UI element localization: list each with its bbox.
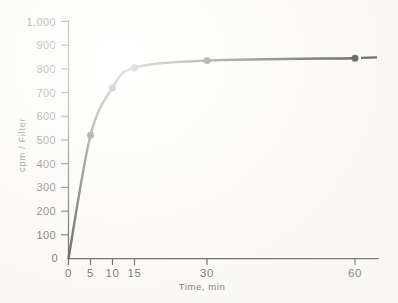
data-point-30min [204, 57, 211, 64]
x-tick-label-30: 30 [200, 267, 214, 279]
y-axis: 1,000 900 800 700 600 500 400 300 200 10… [16, 16, 69, 264]
data-point-5min [87, 132, 94, 139]
y-tick-label-800: 800 [36, 63, 56, 75]
data-series-group [69, 55, 378, 259]
y-tick-label-200: 200 [36, 205, 56, 217]
x-tick-label-10: 10 [106, 267, 120, 279]
figure-canvas: 1,000 900 800 700 600 500 400 300 200 10… [0, 0, 398, 303]
data-point-10min [109, 85, 116, 92]
data-point-60min [352, 55, 359, 62]
y-tick-label-700: 700 [36, 87, 56, 99]
data-point-15min [131, 64, 138, 71]
y-axis-title: cpm / Filter [16, 118, 27, 172]
x-axis-title: Time, min [179, 281, 226, 292]
x-tick-label-5: 5 [87, 267, 94, 279]
y-tick-label-900: 900 [36, 39, 56, 51]
y-tick-label-600: 600 [36, 110, 56, 122]
line-chart: 1,000 900 800 700 600 500 400 300 200 10… [0, 0, 398, 303]
curve-end-stub [361, 57, 377, 58]
y-tick-label-0: 0 [51, 252, 58, 264]
x-tick-label-60: 60 [348, 267, 362, 279]
y-tick-label-100: 100 [36, 229, 56, 241]
data-markers [87, 55, 358, 139]
x-tick-label-15: 15 [128, 267, 142, 279]
y-tick-label-1000: 1,000 [26, 16, 56, 28]
x-tick-label-0: 0 [65, 267, 72, 279]
y-tick-label-500: 500 [36, 134, 56, 146]
y-tick-label-300: 300 [36, 181, 56, 193]
y-tick-label-400: 400 [36, 158, 56, 170]
x-axis: 0 5 10 15 30 60 Time, min [65, 259, 378, 293]
